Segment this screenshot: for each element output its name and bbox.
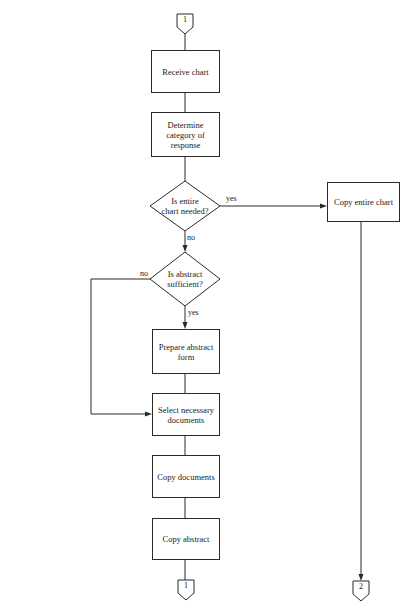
decision2-yes-label: yes [188, 308, 199, 317]
process-select-documents: Select necessary documents [152, 393, 220, 436]
decision-entire-chart-line2: chart needed? [150, 206, 220, 216]
process-copy-abstract: Copy abstract [152, 518, 220, 560]
arrowhead-right-icon [145, 412, 152, 417]
flowchart-canvas: 1 1 2 Receive chart Determine category o… [0, 0, 410, 612]
process-receive-chart: Receive chart [151, 50, 220, 93]
process-copy-documents: Copy documents [152, 455, 220, 498]
connector-top-label: 1 [177, 15, 193, 24]
process-determine-category: Determine category of response [151, 112, 220, 157]
decision-abstract-line2: sufficient? [150, 279, 220, 289]
process-prepare-abstract-form: Prepare abstract form [152, 329, 220, 374]
decision2-no-label: no [140, 269, 148, 278]
decision-entire-chart-text: Is entire chart needed? [150, 196, 220, 216]
arrowhead-down-icon [183, 245, 188, 252]
connector-bottom-left-label: 1 [178, 581, 194, 590]
arrowhead-down-icon [183, 322, 188, 329]
arrowhead-down-icon [359, 574, 364, 581]
decision-entire-chart-line1: Is entire [150, 196, 220, 206]
arrowhead-right-icon [320, 204, 327, 209]
connector-bottom-right-label: 2 [353, 582, 369, 591]
decision1-no-label: no [187, 233, 195, 242]
edge-decision2-no [91, 279, 150, 414]
decision1-yes-label: yes [226, 194, 237, 203]
process-copy-entire-chart: Copy entire chart [327, 182, 400, 222]
decision-abstract-line1: Is abstract [150, 269, 220, 279]
decision-abstract-text: Is abstract sufficient? [150, 269, 220, 289]
